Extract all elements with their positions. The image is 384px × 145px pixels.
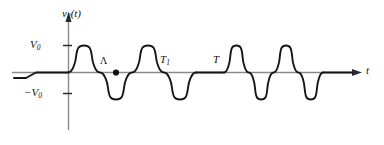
label-v0-symbol: V bbox=[30, 38, 37, 50]
waveform-figure: v3(t) V0 −V0 Λ T1 T t bbox=[0, 0, 384, 145]
label-negative-v0-symbol: −V bbox=[24, 86, 38, 98]
y-axis-label: v3(t) bbox=[62, 8, 81, 21]
waveform-plot bbox=[0, 0, 384, 145]
label-v0-subscript: 0 bbox=[37, 43, 41, 52]
label-t-period: T bbox=[213, 54, 219, 65]
label-negative-v0: −V0 bbox=[24, 87, 42, 100]
label-lambda: Λ bbox=[100, 56, 107, 66]
x-axis-label: t bbox=[366, 65, 369, 76]
lambda-point-marker bbox=[113, 69, 119, 75]
label-t1-subscript: 1 bbox=[166, 58, 170, 67]
flat-lead-in-segment bbox=[14, 73, 68, 79]
label-negative-v0-subscript: 0 bbox=[38, 91, 42, 100]
x-axis-arrowhead bbox=[352, 69, 362, 76]
label-t1: T1 bbox=[160, 54, 170, 67]
y-axis-label-argument: (t) bbox=[71, 7, 81, 19]
label-v0: V0 bbox=[30, 39, 40, 52]
